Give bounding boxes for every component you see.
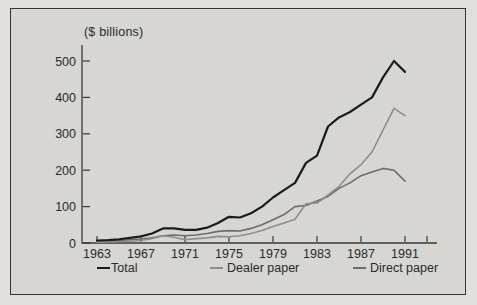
y-tick-label: 100 — [55, 200, 76, 214]
legend-label-total: Total — [111, 261, 137, 275]
x-tick-label: 1963 — [83, 247, 111, 261]
y-tick-label: 200 — [55, 164, 76, 178]
y-tick-label: 500 — [55, 55, 76, 69]
total-line-swatch — [97, 267, 110, 269]
direct-paper-line — [97, 168, 405, 241]
y-tick-label: 300 — [55, 127, 76, 141]
x-tick-label: 1987 — [347, 247, 375, 261]
x-tick-label: 1975 — [215, 247, 243, 261]
x-tick-label: 1983 — [303, 247, 331, 261]
y-axis-unit-label: ($ billions) — [84, 25, 143, 39]
dealer-paper-line — [97, 108, 405, 242]
legend-item-dealer-paper: Dealer paper — [210, 260, 299, 276]
legend-item-total: Total — [97, 260, 137, 276]
total-line — [97, 61, 405, 241]
dealer-paper-line-swatch — [210, 267, 223, 269]
x-tick-label: 1967 — [127, 247, 155, 261]
legend-item-direct-paper: Direct paper — [353, 260, 438, 276]
legend-label-dealer-paper: Dealer paper — [227, 261, 299, 275]
direct-paper-line-swatch — [353, 267, 366, 269]
x-tick-label: 1991 — [391, 247, 419, 261]
y-tick-label: 400 — [55, 91, 76, 105]
x-tick-label: 1971 — [171, 247, 199, 261]
y-tick-label: 0 — [69, 237, 76, 251]
legend: Total Dealer paper Direct paper — [0, 260, 477, 278]
scanned-figure-page: 0100200300400500196319671971197519791983… — [0, 0, 477, 305]
x-tick-label: 1979 — [259, 247, 287, 261]
legend-label-direct-paper: Direct paper — [370, 261, 438, 275]
